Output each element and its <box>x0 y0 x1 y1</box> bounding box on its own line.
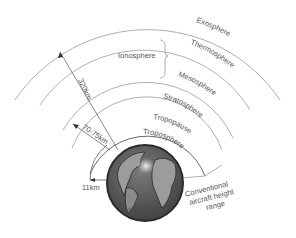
label-mesosphere: Mesosphere <box>177 69 218 97</box>
ionosphere-bracket <box>160 40 168 78</box>
atmosphere-diagram: Exosphere Thermosphere Mesosphere Strato… <box>0 0 296 238</box>
label-320km: 320km <box>76 77 94 101</box>
arrow-11km <box>90 145 107 180</box>
label-70-75km: 70-75km <box>81 122 110 146</box>
label-thermosphere: Thermosphere <box>189 37 236 69</box>
height-arrows <box>58 52 118 182</box>
stratosphere-boundary <box>72 97 222 150</box>
earth-globe <box>107 145 183 221</box>
label-stratosphere: Stratosphere <box>162 91 205 119</box>
label-ionosphere: Ionosphere <box>118 51 156 60</box>
label-exosphere: Exosphere <box>195 15 232 38</box>
arrowhead-icon <box>73 124 79 129</box>
arrowhead-icon <box>90 178 95 182</box>
light-glare <box>137 158 155 174</box>
arrowhead-icon <box>58 52 63 58</box>
aircraft-range-label: Conventional aircraft height range <box>184 178 237 216</box>
exosphere-boundary <box>15 30 280 100</box>
aircraft-range-line <box>182 165 222 178</box>
label-11km: 11km <box>82 183 100 192</box>
